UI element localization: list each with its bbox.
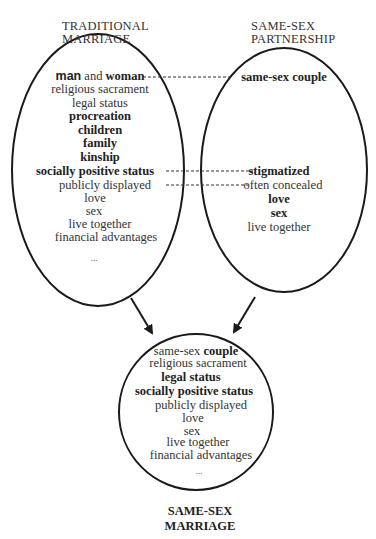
bottom-item: financial advantages [150, 449, 252, 462]
same-sex-partnership-title: SAME-SEX PARTNERSHIP [251, 20, 335, 46]
bottom-item: socially positive status [135, 385, 253, 398]
arrow-right-to-bottom [234, 297, 255, 332]
right-item: often concealed [244, 179, 323, 192]
same-sex-marriage-title: SAME-SEX MARRIAGE [165, 504, 236, 534]
right-item: live together [248, 221, 311, 234]
bottom-item: ... [196, 465, 203, 478]
left-item: kinship [80, 151, 120, 164]
arrow-left-to-bottom [131, 298, 152, 333]
right-item: sex [271, 207, 288, 220]
right-item: love [268, 193, 290, 206]
left-item: financial advantages [55, 231, 157, 244]
left-item: socially positive status [36, 165, 154, 178]
bottom-item: legal status [161, 371, 220, 384]
traditional-marriage-title: TRADITIONAL MARRIAGE [62, 20, 149, 46]
right-item: same-sex couple [241, 71, 327, 84]
left-item: ... [91, 252, 98, 265]
left-item: religious sacrament [51, 83, 149, 96]
bottom-item: religious sacrament [149, 357, 247, 370]
left-item: procreation [69, 110, 131, 123]
left-item: family [83, 137, 117, 150]
right-item: stigmatized [248, 165, 309, 178]
